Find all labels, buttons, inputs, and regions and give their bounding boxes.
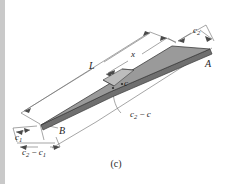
label-c1-left: c1 [15,133,22,142]
arrowhead-c2c1-right [53,145,60,150]
extension-line-L-to-tip [21,113,40,124]
label-point-A: A [205,59,211,69]
extension-line-c1-top [13,126,37,128]
arrowhead-c2-right [205,36,212,42]
label-c-mid: c [124,79,128,88]
label-point-B: B [59,126,65,136]
leader-dot-c2-minus-c [112,87,114,89]
label-c2-right: c2 [193,26,200,35]
label-length-L: L [89,61,95,71]
leader-dot-c [121,83,123,85]
figure-caption: (c) [0,158,232,169]
dimension-line-L-right-seg [104,33,150,62]
figure-panel: c2 A L x c c2 − c B c1 c2 − c1 (c) [0,0,232,184]
label-length-x: x [131,50,135,59]
arrowhead-c1-right [24,128,30,133]
label-c2-minus-c: c2 − c [130,110,151,119]
beam-side-face [41,49,212,130]
label-c2-minus-c1: c2 − c1 [22,148,46,157]
